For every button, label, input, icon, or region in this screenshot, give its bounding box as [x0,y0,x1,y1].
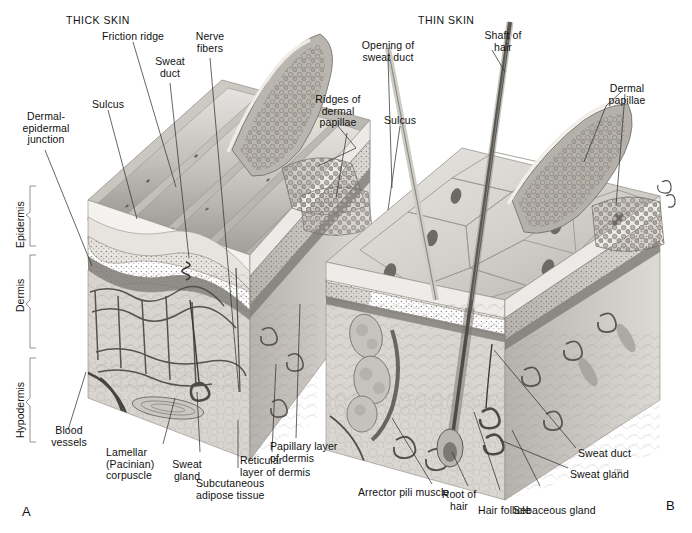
label-dermal-papillae: Dermal papillae [596,83,658,106]
plate-label-a: A [22,504,31,519]
label-lamellar-pacinian-corpuscle: Lamellar (Pacinian) corpuscle [106,447,154,482]
label-sweat-duct-thin: Sweat duct [578,448,631,460]
layer-label-hypodermis: Hypodermis [14,382,26,438]
label-ridges-of-dermal-papillae: Ridges of dermal papillae [300,94,376,129]
panel-title-thick-skin: THICK SKIN [66,14,130,26]
label-opening-of-sweat-duct: Opening of sweat duct [344,40,432,63]
label-sweat-duct: Sweat duct [140,56,200,79]
panel-title-thin-skin: THIN SKIN [418,14,474,26]
label-blood-vessels: Blood vessels [38,425,100,448]
label-sulcus: Sulcus [78,99,138,111]
layer-label-dermis: Dermis [14,279,26,312]
layer-label-epidermis: Epidermis [14,201,26,248]
label-friction-ridge: Friction ridge [79,31,187,43]
label-sulcus-thin: Sulcus [374,115,426,127]
label-subcutaneous-adipose-tissue: Subcutaneous adipose tissue [196,478,265,501]
label-papillary-layer-of-dermis: Papillary layer of dermis [270,441,337,464]
label-dermal-epidermal-junction: Dermal- epidermal junction [8,111,84,146]
label-root-of-hair: Root of hair [436,489,482,512]
label-shaft-of-hair: Shaft of hair [474,30,532,53]
label-sweat-gland-thin: Sweat gland [570,469,629,481]
skin-anatomy-figure: rm [0,0,692,533]
label-sebaceous-gland: Sebaceous gland [513,505,596,517]
plate-label-b: B [666,498,675,513]
label-nerve-fibers: Nerve fibers [180,31,240,54]
